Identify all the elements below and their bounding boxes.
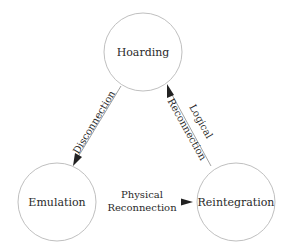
node-hoarding: Hoarding — [104, 13, 182, 91]
edge-physical-reconnection: Physical Reconnection — [107, 189, 193, 213]
edge-logical-reconnection: Logical Reconnection — [165, 84, 214, 166]
state-diagram: Hoarding Emulation Reintegration Disconn… — [0, 0, 282, 247]
node-emulation: Emulation — [18, 163, 96, 241]
disconnection-label: Disconnection — [71, 88, 118, 156]
emulation-label: Emulation — [28, 196, 85, 209]
node-reintegration: Reintegration — [197, 163, 275, 241]
physical-reconnection-label-line2: Reconnection — [107, 202, 177, 213]
hoarding-label: Hoarding — [117, 46, 170, 59]
edge-disconnection: Disconnection — [71, 86, 121, 166]
arrowhead-icon — [181, 199, 193, 206]
reintegration-label: Reintegration — [198, 196, 275, 209]
physical-reconnection-label-line1: Physical — [121, 189, 163, 200]
